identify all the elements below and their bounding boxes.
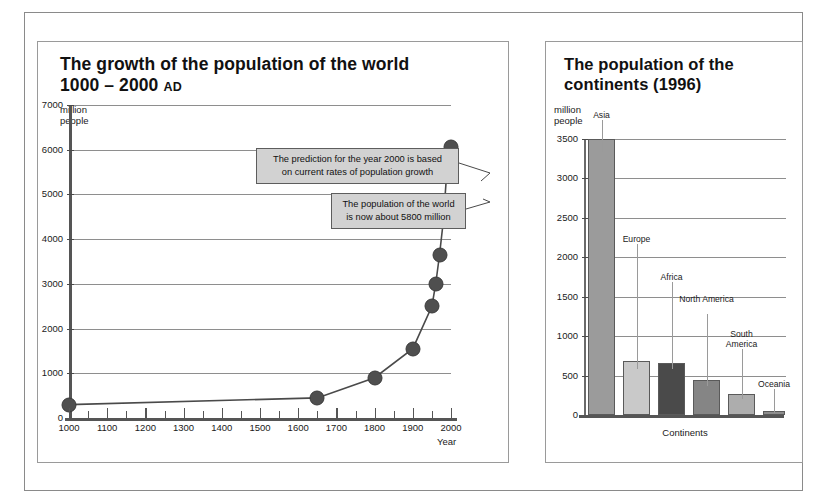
right-chart-title: The population of the continents (1996) (564, 54, 794, 94)
leader-africa (672, 282, 673, 369)
leader-oceania (774, 389, 775, 413)
right-chart-panel: The population of the continents (1996) … (545, 41, 803, 463)
bar-label-europe: Europe (623, 234, 651, 244)
callout-leader-lines (38, 42, 510, 464)
leader-north-america (707, 314, 708, 386)
right-plot-area: 3500 3000 2500 2000 1500 1000 500 0 Asia… (584, 139, 786, 415)
right-y-axis (584, 139, 586, 415)
bar-label-oceania: Oceania (758, 379, 790, 389)
right-x-axis (579, 415, 784, 418)
bar-label-north-america: North America (679, 294, 733, 304)
ytick-label-r-3500: 3500 (550, 133, 578, 144)
ytick-label-r-3000: 3000 (550, 172, 578, 183)
left-chart-panel: The growth of the population of the worl… (37, 41, 509, 463)
bar-label-south-america: South America (719, 329, 764, 350)
leader-asia (602, 120, 603, 152)
ytick-label-r-1000: 1000 (550, 330, 578, 341)
ytick-label-r-2000: 2000 (550, 251, 578, 262)
ytick-label-r-2500: 2500 (550, 212, 578, 223)
ytick-label-r-1500: 1500 (550, 291, 578, 302)
callout-current-population: The population of the world is now about… (331, 193, 466, 229)
ytick-label-r-500: 500 (550, 370, 578, 381)
bar-label-africa: Africa (661, 272, 683, 282)
bar-label-asia: Asia (593, 110, 610, 120)
right-chart-title-line2: continents (1996) (564, 74, 794, 94)
leader-south-america (742, 349, 743, 399)
leader-europe (637, 244, 638, 369)
right-xaxis-name: Continents (662, 427, 707, 438)
callout-prediction: The prediction for the year 2000 is base… (256, 148, 459, 184)
bar-asia (588, 139, 615, 415)
bar-africa (658, 363, 685, 415)
right-yaxis-unit-label: million people (554, 104, 583, 126)
right-chart-title-line1: The population of the (564, 54, 794, 74)
ytick-label-r-0: 0 (550, 409, 578, 420)
